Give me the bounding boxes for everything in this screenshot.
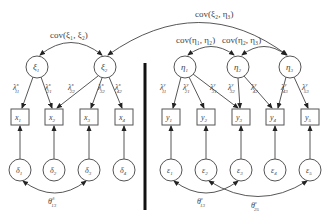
theta-e25-label: θε25 [251, 200, 259, 212]
lambda-x22: λx22 [67, 82, 75, 94]
indicator-x2: x2 [45, 109, 63, 125]
theta-d13-label: θδ13 [48, 196, 57, 208]
cov-eta2-eta3-arc [242, 47, 286, 56]
error-epsilon3: ε3 [230, 159, 252, 181]
error-epsilon4: ε4 [264, 159, 286, 181]
indicator-x4: x4 [115, 109, 133, 125]
error-epsilon1: ε1 [160, 159, 182, 181]
cov-eta2-eta3-label: cov(η₂, η₃) [222, 35, 261, 45]
cov-xi2-eta3-label: cov(ξ₂, η₃) [195, 9, 233, 19]
error-delta1: δ1 [9, 159, 31, 181]
error-delta2: δ2 [43, 159, 65, 181]
loading-eta1-y1 [173, 77, 181, 108]
indicator-y5: y5 [301, 109, 319, 125]
lambda-y11: λy11 [159, 82, 166, 94]
lambda-x32: λx32 [97, 82, 105, 94]
theta-e13-label: θε13 [197, 196, 205, 208]
cov-eta1-eta2-arc [188, 47, 234, 56]
loading-xi2-x2 [57, 76, 98, 108]
indicator-y4: y4 [266, 109, 284, 125]
error-epsilon2: ε2 [195, 159, 217, 181]
error-delta3: δ3 [78, 159, 100, 181]
error-delta4: δ4 [113, 159, 135, 181]
indicator-y1: y1 [162, 109, 180, 125]
sem-diagram: cov(ξ₁, ξ₂) cov(ξ₂, η₃) cov(η₁, η₂) cov(… [0, 0, 330, 219]
cov-xi1-xi2-arc [40, 43, 102, 56]
lambda-y32: λy32 [227, 82, 235, 94]
cov-xi1-xi2-label: cov(ξ₁, ξ₂) [50, 30, 88, 40]
lambda-y53: λy53 [301, 82, 309, 94]
loading-eta1-y2 [189, 77, 204, 108]
lambda-x21: λx21 [44, 82, 52, 94]
latent-eta3: η3 [279, 56, 301, 78]
latent-xi2: ξ2 [94, 56, 116, 78]
cov-eta1-eta2-label: cov(η₁, η₂) [176, 35, 215, 45]
latent-eta1: η1 [174, 56, 196, 78]
indicator-x1: x1 [11, 109, 29, 125]
error-epsilon5: ε5 [299, 159, 321, 181]
loading-eta2-y3 [238, 78, 240, 108]
lambda-y42: λy42 [250, 82, 258, 94]
loading-xi1-x1 [22, 77, 33, 108]
indicator-y2: y2 [197, 109, 215, 125]
lambda-x11: λx11 [12, 82, 19, 94]
lambda-y31: λy31 [209, 82, 217, 94]
indicator-y3: y3 [232, 109, 250, 125]
lambda-y43: λy43 [280, 82, 288, 94]
lambda-y21: λy21 [182, 82, 190, 94]
latent-xi1: ξ1 [26, 56, 48, 78]
latent-eta2: η2 [227, 56, 249, 78]
indicator-x3: x3 [80, 109, 98, 125]
theta-e25-arc [209, 181, 307, 197]
theta-d13-arc [23, 181, 86, 193]
loading-eta2-y4 [244, 76, 272, 108]
